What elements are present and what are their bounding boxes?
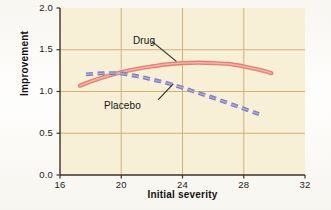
figure-container: 0.0 0.5 1.0 1.5 2.0 16 20 24 28 32 Impro… [0, 0, 331, 210]
y-tick-label-1: 0.5 [23, 127, 53, 138]
annotation-label-drug: Drug [133, 35, 155, 46]
x-axis-label: Initial severity [60, 189, 305, 200]
y-axis-label: Improvement [19, 14, 30, 114]
y-tick-label-0: 0.0 [23, 169, 53, 180]
annotation-label-placebo: Placebo [104, 100, 141, 111]
y-tick-label-4: 2.0 [23, 2, 53, 13]
